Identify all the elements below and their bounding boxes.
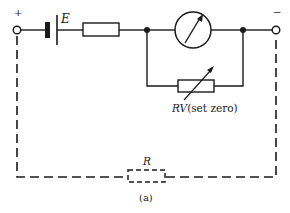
rv-label-main: RV	[171, 102, 189, 114]
variable-resistor-rv: RV(set zero)	[171, 66, 238, 114]
negative-terminal-label: −	[273, 7, 281, 18]
rv-label-note: (set zero)	[187, 102, 237, 114]
terminal-circle-icon	[13, 26, 21, 34]
battery-label: E	[60, 12, 70, 26]
figure-caption: (a)	[139, 192, 153, 203]
unknown-resistor-label: R	[142, 155, 151, 167]
series-resistor-icon	[83, 23, 119, 36]
battery-e: E	[45, 12, 70, 45]
shunt-wire-right	[214, 30, 243, 86]
meter	[175, 12, 211, 48]
battery-short-plate-icon	[45, 22, 50, 38]
shunt-wire-left	[147, 30, 178, 86]
unknown-resistor-r: R	[128, 155, 165, 182]
positive-terminal-label: +	[14, 7, 22, 18]
variable-resistor-label: RV(set zero)	[171, 102, 238, 114]
negative-terminal: −	[272, 7, 281, 34]
dashed-resistor-icon	[128, 170, 165, 182]
variable-arrowhead-icon	[207, 66, 214, 73]
circuit-diagram: + E − RV(set zero)	[0, 0, 290, 213]
dashed-wire-left	[17, 36, 128, 177]
terminal-circle-icon	[272, 26, 280, 34]
